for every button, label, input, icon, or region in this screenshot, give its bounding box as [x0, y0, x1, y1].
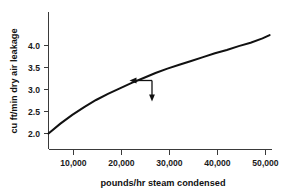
y-tick-label-2-5: 2.5 [28, 107, 40, 117]
y-tick-label-3-5: 3.5 [28, 63, 40, 73]
y-axis-title: cu ft/min dry air leakage [9, 28, 19, 133]
chart-background [0, 0, 292, 196]
x-tick-label-40000: 40,000 [204, 158, 231, 168]
x-tick-label-50000: 50,000 [252, 158, 279, 168]
chart-figure: 4.0 3.5 3.0 2.5 2.0 10,000 20,000 30,000… [0, 0, 292, 196]
x-tick-label-10000: 10,000 [60, 158, 87, 168]
y-tick-label-2-0: 2.0 [28, 129, 40, 139]
x-tick-label-30000: 30,000 [156, 158, 183, 168]
y-tick-label-4-0: 4.0 [28, 41, 40, 51]
x-tick-label-20000: 20,000 [108, 158, 135, 168]
y-tick-label-3-0: 3.0 [28, 85, 40, 95]
chart-canvas: 4.0 3.5 3.0 2.5 2.0 10,000 20,000 30,000… [0, 0, 292, 196]
x-axis-title: pounds/hr steam condensed [100, 178, 225, 188]
